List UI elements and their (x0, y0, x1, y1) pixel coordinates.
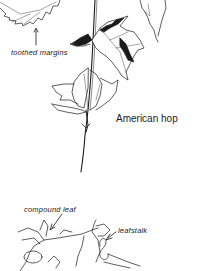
leafstalk-label: leafstalk (118, 227, 147, 235)
toothed-leaf-top-left (0, 0, 60, 26)
hop-illustration: toothed margins American hop compound le… (0, 0, 201, 271)
leafstalk-tendril (100, 239, 140, 266)
middle-leaf-cluster (70, 16, 144, 80)
toothed-margins-label: toothed margins (11, 49, 68, 57)
plant-drawing (0, 0, 201, 271)
lower-leaf-cluster (52, 68, 118, 114)
compound-leaf-label: compound leaf (24, 206, 76, 214)
compound-leaf-pointer (52, 214, 62, 228)
species-name-label: American hop (116, 114, 178, 124)
upper-right-leaf (140, 0, 166, 42)
vine-compound-leaf (18, 220, 130, 271)
